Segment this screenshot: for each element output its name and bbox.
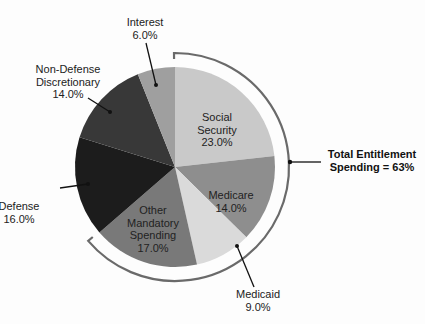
label-social-security: SocialSecurity23.0%	[197, 111, 237, 148]
label-medicaid: Medicaid9.0%	[236, 288, 280, 313]
label-defense: Defense16.0%	[0, 200, 39, 225]
label-interest: Interest6.0%	[127, 16, 164, 41]
label-non-defense-discretionary: Non-DefenseDiscretionary14.0%	[36, 63, 101, 100]
pie-chart: SocialSecurity23.0%Medicare14.0%Medicaid…	[0, 0, 425, 324]
annotation-total-entitlement: Total EntitlementSpending = 63%	[328, 148, 417, 173]
entitlement-annotation: Total EntitlementSpending = 63%	[288, 148, 417, 173]
